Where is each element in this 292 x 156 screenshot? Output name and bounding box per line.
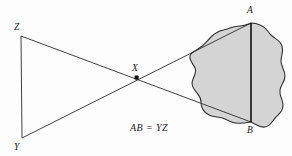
shaded-blob-region xyxy=(190,23,285,127)
diagram-canvas: Z Y X A B AB = YZ xyxy=(0,0,292,156)
geometry-diagram-figure: Z Y X A B AB = YZ xyxy=(0,0,292,156)
vertex-label-b: B xyxy=(247,125,253,135)
intersection-point-x-dot xyxy=(135,76,139,80)
vertex-label-z: Z xyxy=(14,22,20,32)
equation-caption: AB = YZ xyxy=(129,122,168,133)
vertex-label-y: Y xyxy=(14,142,21,152)
vertex-label-a: A xyxy=(246,5,253,15)
segment-z-y xyxy=(21,36,22,138)
vertex-label-x: X xyxy=(131,63,139,73)
